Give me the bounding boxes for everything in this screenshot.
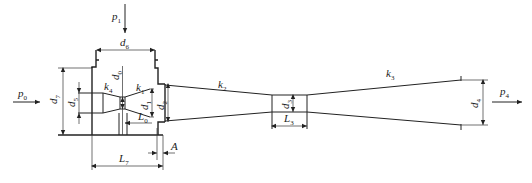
svg-text:d4: d4 bbox=[468, 99, 483, 109]
dim-d7: d7 bbox=[47, 68, 63, 135]
label-k4: k4 bbox=[104, 80, 113, 95]
svg-text:L3: L3 bbox=[283, 112, 294, 127]
svg-text:d5: d5 bbox=[65, 98, 80, 108]
svg-text:A: A bbox=[170, 140, 178, 152]
dim-d0: d0 bbox=[109, 66, 124, 135]
mixing-tube bbox=[165, 76, 488, 130]
dim-L3: L3 bbox=[272, 112, 307, 127]
svg-text:d3: d3 bbox=[279, 100, 294, 110]
label-k3: k3 bbox=[386, 67, 395, 82]
dim-L0: L0 bbox=[125, 110, 152, 125]
p0-arrow: p0 bbox=[13, 87, 40, 102]
svg-text:d2: d2 bbox=[154, 101, 169, 111]
dim-d6: d6 bbox=[97, 36, 155, 51]
svg-text:d1: d1 bbox=[138, 101, 153, 111]
dim-d4: d4 bbox=[468, 80, 483, 125]
label-k2: k2 bbox=[218, 78, 227, 93]
p1-arrow: p1 bbox=[111, 4, 125, 33]
dim-d5: d5 bbox=[65, 82, 80, 124]
label-k1: k1 bbox=[136, 81, 145, 96]
dim-d2: d2 bbox=[154, 84, 169, 122]
label-p1: p1 bbox=[111, 10, 122, 25]
label-p4: p4 bbox=[499, 85, 510, 100]
svg-text:d0: d0 bbox=[109, 71, 124, 81]
svg-text:d6: d6 bbox=[120, 36, 130, 51]
dim-d3: d3 bbox=[279, 95, 294, 112]
svg-text:L7: L7 bbox=[118, 152, 129, 167]
ejector-diagram: p1 d6 p0 d7 d5 k4 d0 k1 d1 d2 bbox=[0, 0, 532, 183]
svg-text:d7: d7 bbox=[47, 95, 62, 105]
p4-arrow: p4 bbox=[492, 85, 522, 102]
label-p0: p0 bbox=[17, 87, 28, 102]
